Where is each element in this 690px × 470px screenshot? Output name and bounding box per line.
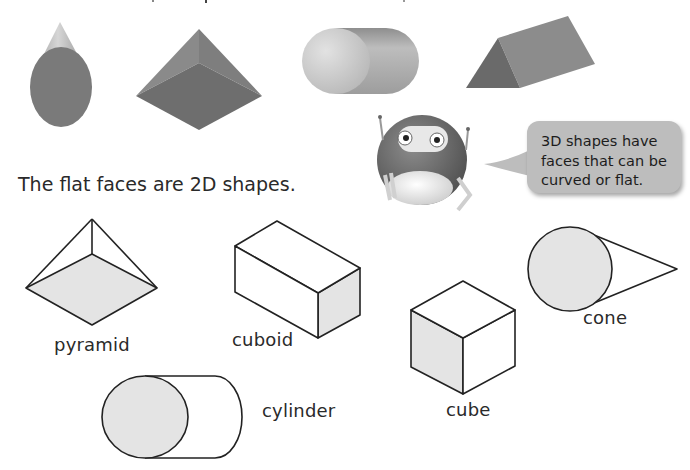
worksheet-drawing [0,0,690,470]
robot-mascot-icon [377,115,470,210]
cube-label: cube [446,399,491,420]
solid-prism-icon [466,16,595,88]
cube-diagram [411,281,515,394]
cuboid-label: cuboid [232,329,293,350]
pyramid-diagram [26,219,157,325]
pyramid-label: pyramid [54,334,130,355]
solid-cylinder-icon [302,28,419,94]
speech-bubble-tail [484,150,530,176]
solid-cone-icon [30,22,92,127]
cut-off-text-descenders [152,0,405,3]
solid-pyramid-icon [136,29,262,130]
speech-bubble-line: curved or flat. [541,171,681,191]
speech-bubble-line: 3D shapes have [541,132,681,152]
section-heading: The flat faces are 2D shapes. [18,173,296,195]
cylinder-label: cylinder [262,400,335,421]
speech-bubble: 3D shapes have faces that can be curved … [527,121,681,193]
cone-diagram [528,227,677,311]
cone-label: cone [583,307,627,328]
speech-bubble-line: faces that can be [541,152,681,172]
cylinder-diagram [102,376,242,458]
cuboid-diagram [235,221,360,338]
